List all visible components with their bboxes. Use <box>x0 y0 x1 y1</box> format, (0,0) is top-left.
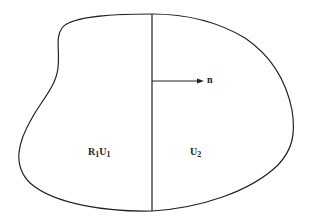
region-right-label: U2 <box>190 147 201 159</box>
region-left-label: R1U1 <box>88 147 110 159</box>
domain-boundary <box>19 14 294 211</box>
domain-diagram <box>0 0 309 224</box>
normal-label: n <box>207 75 213 85</box>
normal-vector-arrowhead <box>197 79 204 84</box>
